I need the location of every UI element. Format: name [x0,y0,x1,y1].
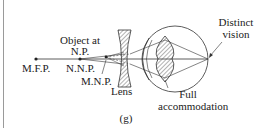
label-lens: Lens [111,86,132,97]
mfp-point [34,57,37,60]
concave-lens [118,30,131,87]
label-distinct: Distinct [218,17,254,28]
label-np: N.P. [63,46,97,57]
label-accommodation: accommodation [158,101,218,112]
label-mnp: M.N.P. [81,76,112,87]
mnp-pointer [102,60,106,74]
distinct-vision-pointer [210,42,222,56]
figure-caption: (g) [112,113,140,124]
label-vision: vision [218,29,254,40]
label-mfp: M.F.P. [22,63,50,74]
full-accommodation-pointer [165,80,168,88]
nnp-point [78,57,81,60]
label-nnp: N.N.P. [66,63,95,74]
mnp-point [105,56,108,59]
arrow-head-icon [209,53,213,58]
label-full: Full [166,89,210,100]
